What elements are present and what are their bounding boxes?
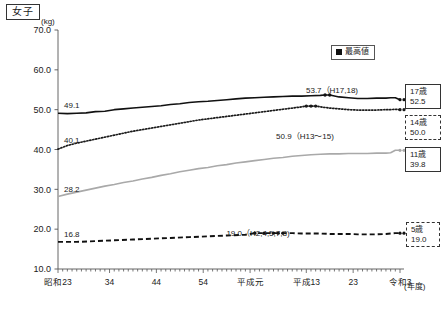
peak-marker-14歳: [309, 104, 312, 107]
x-tick-label: 平成13: [293, 277, 321, 287]
x-tick-label: 44: [152, 277, 162, 287]
chart-container: 女子 (kg) (年度) 最高値 17歳 52.5 14歳 50.0 11歳 3…: [0, 0, 446, 312]
x-tick-label: 23: [348, 277, 358, 287]
y-tick-label: 40.0: [33, 145, 51, 155]
series-endmark-17歳: [398, 98, 401, 101]
peak-marker-14歳: [314, 104, 317, 107]
y-tick-label: 50.0: [33, 105, 51, 115]
series-endmark-11歳: [398, 149, 401, 152]
end-label-14-age: 14歳: [410, 118, 437, 128]
x-tick-label: 平成元: [237, 277, 264, 287]
end-label-5: 5歳 19.0: [406, 222, 440, 247]
plot-text: 70.060.050.040.030.020.010.0昭和23344454平成…: [33, 25, 411, 287]
x-tick-label: 54: [198, 277, 208, 287]
peak-marker-14歳: [305, 104, 308, 107]
end-label-17: 17歳 52.5: [405, 84, 441, 109]
start-value-label: 49.1: [64, 101, 80, 110]
annotation-label: 19.0（H2,4,5,7,8): [226, 229, 289, 238]
start-value-label: 16.8: [64, 230, 80, 239]
series-endmark-5歳: [398, 232, 401, 235]
end-label-14-value: 50.0: [410, 128, 437, 138]
series-endmark-14歳: [398, 108, 401, 111]
series-line-17歳: [58, 95, 400, 114]
end-label-11-age: 11歳: [410, 150, 437, 160]
end-label-5-value: 19.0: [411, 235, 436, 245]
start-value-label: 40.1: [64, 136, 80, 145]
y-tick-label: 20.0: [33, 224, 51, 234]
end-label-17-value: 52.5: [410, 97, 437, 107]
x-tick-label: 34: [105, 277, 115, 287]
annotation-label: 50.9（H13〜15): [276, 132, 334, 141]
y-tick-label: 30.0: [33, 185, 51, 195]
series-lines: [58, 93, 406, 242]
y-tick-label: 10.0: [33, 264, 51, 274]
annotation-label: 53.7（H17,18): [306, 86, 358, 95]
end-label-11-value: 39.8: [410, 160, 437, 170]
panel-title: 女子: [6, 4, 40, 20]
series-line-14歳: [58, 106, 400, 149]
legend-label: 最高値: [345, 47, 369, 57]
end-label-14: 14歳 50.0: [405, 115, 441, 140]
plot-area: 70.060.050.040.030.020.010.0昭和23344454平成…: [0, 0, 446, 312]
legend-marker-icon: [336, 49, 342, 55]
start-value-label: 28.2: [64, 185, 80, 194]
end-label-11: 11歳 39.8: [405, 147, 441, 172]
series-line-11歳: [58, 150, 400, 196]
x-tick-label: 昭和23: [44, 277, 72, 287]
legend: 最高値: [331, 45, 375, 60]
y-tick-label: 70.0: [33, 25, 51, 35]
y-axis-unit: (kg): [41, 17, 55, 26]
end-label-17-age: 17歳: [410, 87, 437, 97]
x-axis-unit: (年度): [404, 282, 425, 291]
end-label-5-age: 5歳: [411, 225, 436, 235]
y-tick-label: 60.0: [33, 65, 51, 75]
